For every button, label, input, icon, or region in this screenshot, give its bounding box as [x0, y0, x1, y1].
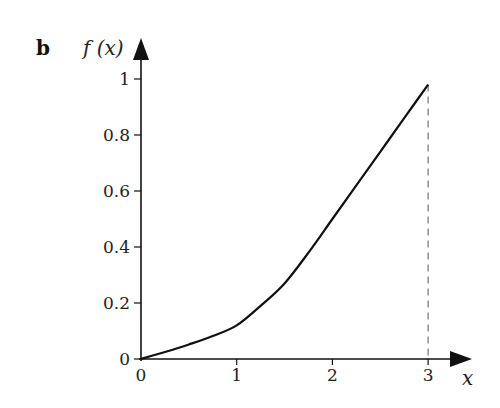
y-axis-label: f (x): [81, 36, 124, 60]
x-axis-arrow-icon: [450, 351, 472, 367]
x-tick-label: 2: [327, 365, 338, 385]
y-tick-label: 0.4: [103, 237, 130, 257]
y-tick-label: 0.6: [103, 181, 130, 201]
y-axis-arrow-icon: [133, 38, 149, 60]
y-tick-label: 0.2: [103, 293, 130, 313]
x-axis-label: x: [462, 366, 473, 390]
series-line: [141, 85, 428, 359]
chart: b f (x) x 012300.20.40.60.81: [0, 0, 500, 408]
x-tick-label: 3: [423, 365, 434, 385]
x-tick-label: 1: [231, 365, 242, 385]
panel-label: b: [36, 36, 50, 60]
x-tick-label: 0: [136, 365, 147, 385]
ticks: 012300.20.40.60.81: [103, 69, 434, 385]
y-tick-label: 1: [119, 69, 130, 89]
y-tick-label: 0.8: [103, 125, 130, 145]
y-tick-label: 0: [119, 349, 130, 369]
